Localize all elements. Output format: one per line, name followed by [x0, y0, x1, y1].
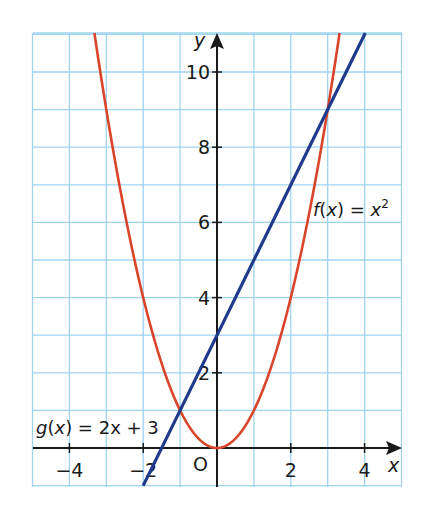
y-tick-label: 8	[198, 136, 210, 158]
origin-label: O	[193, 453, 208, 475]
x-axis-label: x	[387, 454, 400, 476]
f-label-paren-open: (	[319, 199, 326, 220]
g-label-fn: g	[36, 417, 47, 438]
x-tick-label: 4	[359, 459, 371, 481]
f-label: f(x) = x2	[313, 197, 389, 220]
y-tick-label: 10	[186, 61, 210, 83]
y-tick-label: 6	[198, 211, 210, 233]
x-tick-label: 2	[285, 459, 297, 481]
x-tick-label: −4	[55, 459, 83, 481]
g-label-rhs: 2x + 3	[99, 417, 159, 438]
y-axis-label: y	[193, 29, 206, 51]
y-tick-label: 4	[198, 287, 210, 309]
f-label-exp: 2	[381, 197, 389, 211]
f-label-rhs-var: x	[370, 199, 382, 220]
f-label-eq: ) =	[337, 199, 371, 220]
function-graph: −4−224246810 x y O f(x) = x2 g(x) = 2x +…	[0, 0, 423, 507]
g-label-paren-open: (	[47, 417, 54, 438]
f-label-var: x	[325, 199, 337, 220]
g-label-eq: ) =	[65, 417, 99, 438]
g-label: g(x) = 2x + 3	[36, 417, 159, 438]
g-label-var: x	[53, 417, 65, 438]
